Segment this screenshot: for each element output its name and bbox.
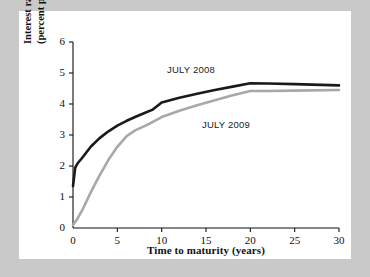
series-line-july-2008 [73, 83, 339, 186]
line-chart-plot [19, 11, 351, 259]
y-tick-label: 3 [51, 128, 65, 140]
x-tick-label: 20 [240, 234, 260, 246]
y-tick-label: 6 [51, 35, 65, 47]
series-group [73, 83, 339, 225]
y-tick-label: 0 [51, 221, 65, 233]
series-label-july-2008: JULY 2008 [167, 64, 215, 75]
y-axis-title-line-2: (percent per year) [35, 0, 46, 44]
chart-card: Interest rate (percent per year) Time to… [19, 11, 351, 259]
chart-svg [19, 11, 351, 259]
x-tick-label: 30 [329, 234, 349, 246]
figure-root: Interest rate (percent per year) Time to… [0, 0, 370, 277]
y-tick-label: 2 [51, 159, 65, 171]
y-axis-title-line-1: Interest rate [22, 0, 33, 44]
series-label-july-2009: JULY 2009 [202, 119, 250, 130]
series-line-july-2009 [73, 90, 339, 225]
y-axis-title: Interest rate (percent per year) [21, 33, 55, 153]
x-tick-label: 0 [63, 234, 83, 246]
x-tick-label: 25 [285, 234, 305, 246]
x-tick-label: 5 [107, 234, 127, 246]
y-tick-label: 5 [51, 66, 65, 78]
x-tick-label: 15 [196, 234, 216, 246]
y-tick-label: 4 [51, 97, 65, 109]
x-tick-label: 10 [152, 234, 172, 246]
y-tick-label: 1 [51, 190, 65, 202]
